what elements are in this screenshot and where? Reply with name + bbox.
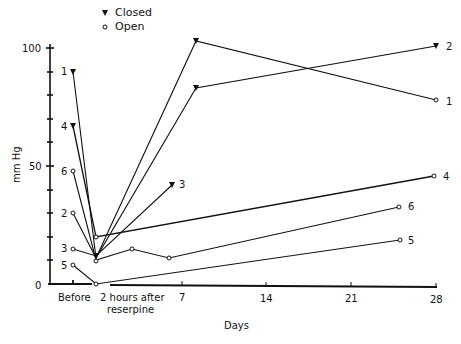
closed-marker <box>70 123 76 129</box>
y-tick-label: 100 <box>22 43 41 54</box>
open-marker <box>434 98 438 102</box>
x-tick-label: 21 <box>345 293 358 304</box>
open-marker <box>71 247 75 251</box>
series-label: 4 <box>61 121 67 132</box>
series-label: 2 <box>61 208 67 219</box>
y-axis <box>46 44 54 285</box>
legend-label-closed: Closed <box>115 6 152 20</box>
series-label: 6 <box>61 166 67 177</box>
series-label: 2 <box>446 41 452 52</box>
legend-item-open: Open <box>100 20 152 34</box>
series-label: 5 <box>61 260 67 271</box>
x-axis-label: Days <box>224 320 249 331</box>
open-marker <box>94 259 98 263</box>
line-chart: 100 50 0 mm Hg Before 2 hours after rese… <box>0 0 461 344</box>
open-marker <box>398 238 402 242</box>
series-5-line <box>73 240 400 284</box>
series-label: 4 <box>443 171 449 182</box>
series-1-line <box>73 41 436 258</box>
y-tick-label: 50 <box>29 161 42 172</box>
series-label: 1 <box>61 66 67 77</box>
closed-markers <box>70 38 439 259</box>
series-label: 6 <box>408 201 414 212</box>
series-label: 5 <box>408 235 414 246</box>
x-tick-label: 7 <box>179 292 185 303</box>
x-tick-label: 2 hours after <box>100 292 165 303</box>
series-lines <box>73 41 436 284</box>
y-tick-label: 0 <box>35 280 41 291</box>
open-marker <box>167 256 171 260</box>
series-label: 3 <box>61 243 67 254</box>
closed-marker <box>70 69 76 75</box>
series-label: 1 <box>446 96 452 107</box>
x-tick-label: 28 <box>430 294 443 305</box>
open-marker <box>432 174 436 178</box>
legend-item-closed: Closed <box>100 6 152 20</box>
x-tick-label: Before <box>58 292 91 303</box>
open-marker <box>130 247 134 251</box>
legend-label-open: Open <box>115 20 144 34</box>
series-4-line <box>73 126 434 237</box>
x-tick-label: 14 <box>260 293 273 304</box>
open-circle-icon <box>100 22 110 32</box>
open-marker <box>397 205 401 209</box>
open-marker <box>94 235 98 239</box>
open-marker <box>71 211 75 215</box>
closed-marker <box>93 253 99 259</box>
legend: Closed Open <box>100 6 152 34</box>
open-marker <box>94 282 98 286</box>
x-axis <box>48 280 437 287</box>
series-6-line <box>73 171 399 260</box>
open-marker <box>71 169 75 173</box>
filled-triangle-icon <box>100 8 110 18</box>
open-marker <box>71 263 75 267</box>
x-tick-label: reserpine <box>107 304 154 315</box>
series-label: 3 <box>179 179 185 190</box>
y-axis-label: mm Hg <box>11 146 22 183</box>
